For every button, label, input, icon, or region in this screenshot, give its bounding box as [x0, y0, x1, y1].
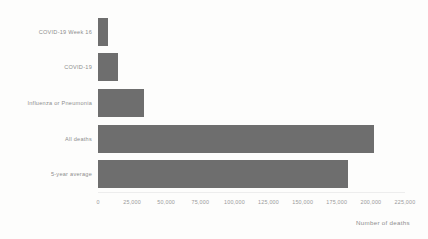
plot-area: COVID-19 Week 16COVID-19Influenza or Pne…	[98, 14, 405, 192]
bar	[98, 18, 108, 46]
x-tick-label: 125,000	[258, 199, 279, 205]
bar-row: COVID-19	[98, 50, 405, 86]
bar-row: All deaths	[98, 121, 405, 157]
bar	[98, 160, 348, 188]
x-tick-label: 200,000	[360, 199, 381, 205]
category-label: 5-year average	[51, 171, 92, 177]
x-axis-title: Number of deaths	[356, 219, 410, 226]
category-label: All deaths	[65, 136, 92, 142]
category-label: COVID-19 Week 16	[39, 29, 92, 35]
bar	[98, 125, 374, 153]
bar	[98, 89, 144, 117]
bar-row: COVID-19 Week 16	[98, 14, 405, 50]
x-tick-label: 50,000	[157, 199, 175, 205]
bar-row: Influenza or Pneumonia	[98, 85, 405, 121]
x-tick-label: 225,000	[395, 199, 416, 205]
x-tick-label: 25,000	[123, 199, 141, 205]
x-tick-labels: 025,00050,00075,000100,000125,000150,000…	[98, 193, 405, 205]
x-tick-label: 0	[96, 199, 99, 205]
chart-page: COVID-19 Week 16COVID-19Influenza or Pne…	[0, 0, 428, 239]
bar-row: 5-year average	[98, 156, 405, 192]
x-tick-label: 75,000	[191, 199, 209, 205]
category-label: Influenza or Pneumonia	[27, 100, 92, 106]
bar	[98, 53, 118, 81]
category-label: COVID-19	[64, 64, 92, 70]
x-tick-label: 100,000	[224, 199, 245, 205]
x-tick-label: 175,000	[326, 199, 347, 205]
x-tick-label: 150,000	[292, 199, 313, 205]
